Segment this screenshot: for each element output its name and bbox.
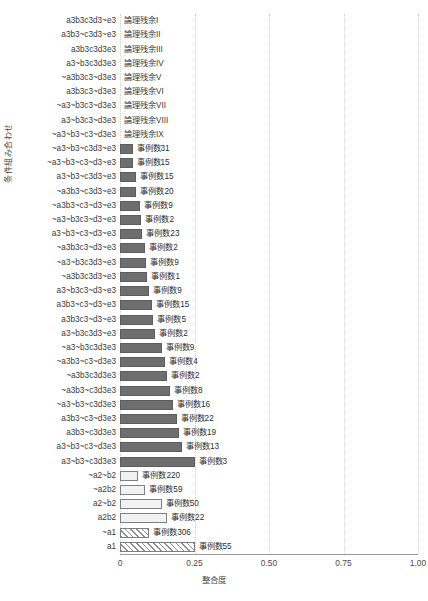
bar-row: a3b3c3~d3~e3事例数5 [120, 313, 418, 327]
bar-value-label: 事例数13 [186, 440, 219, 454]
category-label: a3b3~c3d3e3 [66, 426, 116, 440]
bar-value-label: 事例数16 [177, 398, 210, 412]
bar [120, 329, 155, 339]
plot-area: a3b3c3d3~e3論理残余Ia3b3~c3d3~e3論理残余IIa3b3c3… [120, 14, 418, 554]
category-label: ~a3~b3c3d3~e3 [57, 256, 116, 270]
bar-row: a3b3c3d3e3論理残余III [120, 43, 418, 57]
x-axis-line [120, 554, 418, 555]
category-label: a3~b3c3~d3e3 [61, 114, 116, 128]
bar [120, 400, 173, 410]
bar-value-label: 事例数306 [153, 526, 191, 540]
bar [120, 229, 142, 239]
bar-row: a1事例数55 [120, 540, 418, 554]
bar-row: a3~b3~c3~d3e3事例数13 [120, 440, 418, 454]
bar-row: ~a3~b3c3d3~e3事例数9 [120, 256, 418, 270]
bar-value-label: 事例数20 [140, 185, 173, 199]
bar-row: ~a3~b3~c3~d3~e3事例数15 [120, 156, 418, 170]
bar-value-label: 事例数8 [174, 384, 203, 398]
bar-value-label: 事例数4 [169, 355, 198, 369]
category-label: ~a3~b3~c3~d3~e3 [47, 156, 116, 170]
bar [120, 144, 133, 154]
bar-value-label: 事例数50 [166, 497, 199, 511]
y-axis-title-text: 条件組み合わせ [2, 123, 13, 183]
bar-value-label: 事例数15 [137, 156, 170, 170]
x-axis-title-text: 整合度 [202, 575, 226, 585]
bar [120, 414, 177, 424]
bar-value-label: 事例数19 [183, 426, 216, 440]
category-label: ~a3b3c3~d3e3 [61, 71, 116, 85]
x-axis-tick: 1.00 [398, 558, 428, 568]
category-label: a3b3c3d3e3 [71, 43, 116, 57]
y-axis-title: 条件組み合わせ [2, 78, 13, 228]
category-label: ~a3~b3~c3~d3e3 [52, 128, 116, 142]
bar-row: a3b3~c3~d3~e3事例数15 [120, 298, 418, 312]
residual-label: 論理残余III [124, 43, 163, 57]
bar-row: ~a2b2事例数59 [120, 483, 418, 497]
x-axis-title: 整合度 [0, 573, 428, 585]
x-axis-tick: 0.25 [175, 558, 215, 568]
bar-row: ~a3b3~c3d3e3事例数8 [120, 384, 418, 398]
bar-value-label: 事例数23 [146, 227, 179, 241]
bar-row: ~a3b3c3~d3e3論理残余V [120, 71, 418, 85]
category-label: a3b3c3d3~e3 [66, 14, 116, 28]
bar-row: ~a3b3c3d3~e3事例数1 [120, 270, 418, 284]
bar-row: a3b3c3d3~e3論理残余I [120, 14, 418, 28]
bar [120, 371, 167, 381]
bar [120, 457, 195, 467]
category-label: ~a3~b3c3~d3e3 [57, 99, 116, 113]
bar-row: ~a3~b3c3~d3~e3事例数2 [120, 213, 418, 227]
bar-value-label: 事例数2 [149, 241, 178, 255]
bar-value-label: 事例数2 [145, 213, 174, 227]
bar-row: ~a3b3c3~d3~e3事例数2 [120, 241, 418, 255]
bar-value-label: 事例数9 [144, 199, 173, 213]
bar [120, 485, 145, 495]
bar-value-label: 事例数2 [159, 327, 188, 341]
category-label: a3b3~c3~d3~e3 [57, 298, 116, 312]
bar-row: a3~b3c3d3e3論理残余IV [120, 57, 418, 71]
bar [120, 215, 141, 225]
bar-row: a3b3~c3~d3e3事例数22 [120, 412, 418, 426]
bar-value-label: 事例数9 [153, 284, 182, 298]
residual-label: 論理残余V [124, 71, 161, 85]
category-label: ~a3b3c3d3~e3 [61, 270, 116, 284]
bar-value-label: 事例数1 [151, 270, 180, 284]
bar-row: ~a3b3c3d3e3事例数2 [120, 369, 418, 383]
bar-row: ~a3~b3c3d3e3事例数9 [120, 341, 418, 355]
category-label: a3b3c3~d3~e3 [61, 313, 116, 327]
bar [120, 286, 149, 296]
residual-label: 論理残余II [124, 28, 161, 42]
bar-row: a3~b3~c3~d3~e3事例数23 [120, 227, 418, 241]
x-axis-tick: 0 [100, 558, 140, 568]
category-label: a2b2 [98, 511, 116, 525]
category-label: ~a3b3c3~d3~e3 [57, 241, 116, 255]
bar-row: a3~b3c3~d3~e3事例数9 [120, 284, 418, 298]
category-label: ~a3b3c3d3e3 [66, 369, 116, 383]
category-label: ~a2~b2 [88, 469, 116, 483]
bar-value-label: 事例数220 [142, 469, 180, 483]
bar-row: ~a3~b3c3~d3e3論理残余VII [120, 99, 418, 113]
bar-row: a3~b3c3~d3e3論理残余VIII [120, 114, 418, 128]
bar-row: ~a3~b3~c3d3~e3事例数31 [120, 142, 418, 156]
category-label: ~a3b3~c3~d3e3 [57, 355, 116, 369]
bar [120, 528, 149, 538]
category-label: a3~b3~c3d3e3 [61, 455, 116, 469]
category-label: ~a3~b3c3~d3~e3 [52, 213, 116, 227]
bar-value-label: 事例数31 [137, 142, 170, 156]
bar-row: ~a2~b2事例数220 [120, 469, 418, 483]
bar-value-label: 事例数5 [157, 313, 186, 327]
bar [120, 471, 138, 481]
bar [120, 513, 167, 523]
bar [120, 542, 195, 552]
category-label: ~a3~b3c3d3e3 [61, 341, 116, 355]
bar-value-label: 事例数15 [140, 170, 173, 184]
category-label: a3~b3~c3~d3e3 [57, 440, 116, 454]
residual-label: 論理残余IV [124, 57, 164, 71]
residual-label: 論理残余IX [124, 128, 164, 142]
gridline-1.00 [418, 14, 419, 554]
category-label: ~a1 [102, 526, 116, 540]
category-label: ~a3~b3~c3d3~e3 [52, 142, 116, 156]
category-label: a3b3c3~d3e3 [66, 85, 116, 99]
category-label: ~a3b3~c3d3e3 [61, 384, 116, 398]
bar [120, 428, 179, 438]
category-label: ~a3b3~c3~d3~e3 [52, 199, 116, 213]
